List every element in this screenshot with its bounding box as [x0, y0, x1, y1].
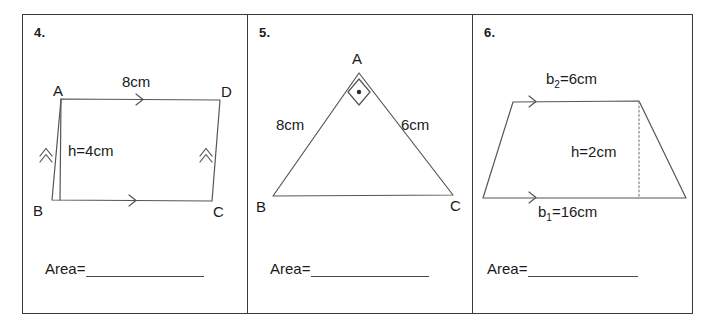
- problem-panel-5: 5. A B C 8cm 6cm Area=: [248, 15, 473, 313]
- vertex-label-c: C: [213, 204, 224, 219]
- height-measurement-label: h=2cm: [571, 144, 616, 159]
- right-side-measurement-label: 6cm: [401, 117, 429, 132]
- problem-panel-6: 6. b2=6cm h=2cm b1=16cm: [473, 15, 692, 313]
- vertex-label-d: D: [221, 84, 232, 99]
- area-answer-row-4: Area=: [45, 261, 204, 277]
- vertex-label-c: C: [450, 198, 461, 213]
- height-measurement-label: h=4cm: [68, 143, 113, 158]
- left-side-measurement-label: 8cm: [276, 117, 304, 132]
- area-input-blank-4[interactable]: [86, 263, 204, 277]
- area-input-blank-6[interactable]: [528, 263, 638, 277]
- top-base-measurement-label: b2=6cm: [546, 71, 597, 86]
- bottom-base-value: =16cm: [552, 203, 597, 220]
- bottom-base-measurement-label: b1=16cm: [538, 204, 597, 219]
- area-input-blank-5[interactable]: [311, 263, 429, 277]
- area-answer-row-6: Area=: [487, 261, 638, 277]
- problem-grid: 4.: [22, 14, 693, 314]
- area-label-4: Area=: [45, 261, 85, 277]
- area-answer-row-5: Area=: [270, 261, 429, 277]
- area-label-6: Area=: [487, 261, 527, 277]
- vertex-label-a: A: [352, 51, 362, 66]
- base-measurement-label: 8cm: [122, 74, 150, 89]
- worksheet-sheet: 4.: [0, 0, 716, 334]
- vertex-label-b: B: [256, 199, 266, 214]
- vertex-label-a: A: [53, 83, 63, 98]
- area-label-5: Area=: [270, 261, 310, 277]
- vertex-label-b: B: [33, 203, 43, 218]
- top-base-value: =6cm: [560, 70, 597, 87]
- problem-panel-4: 4.: [23, 15, 248, 313]
